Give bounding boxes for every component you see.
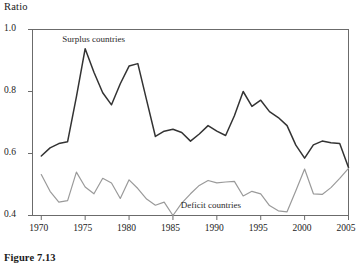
y-tick-label: 0.8 (4, 85, 16, 95)
figure-container: Ratio 0.40.60.81.0 197019751980198519901… (0, 0, 357, 264)
x-tick-label: 1990 (205, 223, 224, 233)
line-chart-plot: 0.40.60.81.0 197019751980198519901995200… (0, 0, 357, 264)
plot-frame (33, 30, 349, 216)
x-tick-label: 1980 (117, 223, 136, 233)
y-tick-label: 0.4 (4, 209, 16, 219)
figure-caption: Figure 7.13 (4, 252, 56, 263)
x-tick-label: 2005 (337, 223, 356, 233)
y-axis-ticks (28, 30, 33, 216)
series-label-deficit-countries: Deficit countries (181, 200, 241, 210)
x-axis-ticks (41, 216, 348, 221)
y-tick-label: 0.6 (4, 147, 16, 157)
y-tick-label: 1.0 (4, 23, 16, 33)
x-tick-label: 1975 (73, 223, 92, 233)
x-tick-label: 2000 (293, 223, 312, 233)
x-tick-label: 1995 (249, 223, 268, 233)
x-tick-label: 1970 (29, 223, 48, 233)
series-label-surplus-countries: Surplus countries (62, 34, 125, 44)
x-tick-label: 1985 (161, 223, 180, 233)
